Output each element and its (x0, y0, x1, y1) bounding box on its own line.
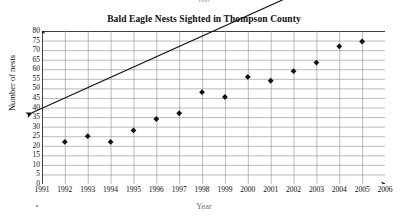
data-point-marker (359, 39, 365, 45)
x-axis-tick-label: 2002 (282, 186, 306, 194)
y-axis-tick-label: 50 (33, 84, 41, 92)
y-axis-tick-label: 40 (33, 104, 41, 112)
ghost-header-text: Year (0, 0, 408, 3)
chart-page: Year Bald Eagle Nests Sighted in Thompso… (0, 0, 408, 218)
y-axis-tick-label: 10 (33, 161, 41, 169)
data-point-marker (131, 128, 137, 134)
y-axis-tick-label: 60 (33, 65, 41, 73)
x-axis-tick-label: 1999 (213, 186, 237, 194)
data-point-markers (42, 31, 385, 184)
y-axis-tick-label: 25 (33, 132, 41, 140)
x-axis-tick-label: 1992 (53, 186, 77, 194)
x-axis-tick-label: 1993 (76, 186, 100, 194)
x-axis-tick-label: 2001 (259, 186, 283, 194)
y-axis-tick-label: 30 (33, 123, 41, 131)
data-point-marker (291, 68, 297, 74)
x-axis-tick-label: 2004 (327, 186, 351, 194)
x-axis-tick-label: 1997 (167, 186, 191, 194)
x-axis-tick-label: 2003 (304, 186, 328, 194)
y-axis-tick-label: 20 (33, 142, 41, 150)
data-point-marker (245, 74, 251, 80)
data-point-marker (62, 139, 68, 145)
chart-title: Bald Eagle Nests Sighted in Thompson Cou… (0, 14, 408, 24)
data-point-marker (222, 94, 228, 100)
data-point-marker (314, 60, 320, 66)
data-point-marker (336, 43, 342, 49)
y-axis-tick-label: 80 (33, 27, 41, 35)
y-axis-tick-label: 15 (33, 151, 41, 159)
x-axis-label: Year (0, 201, 408, 211)
y-axis-label: Number of nests (7, 43, 17, 123)
data-point-marker (268, 78, 274, 84)
x-axis-tick-label: 2000 (236, 186, 260, 194)
y-axis-tick-labels: 05101520253035404550556065707580 (0, 31, 40, 184)
x-axis-tick-label: 2006 (373, 186, 397, 194)
x-axis-tick-label: 1995 (121, 186, 145, 194)
x-axis-tick-label: 1991 (30, 186, 54, 194)
data-point-marker (153, 116, 159, 122)
data-point-marker (199, 89, 205, 95)
x-axis-tick-label: 1998 (190, 186, 214, 194)
y-axis-tick-label: 45 (33, 94, 41, 102)
x-axis-tick-label: 1996 (144, 186, 168, 194)
y-axis-tick-label: 65 (33, 56, 41, 64)
y-axis-tick-label: 70 (33, 46, 41, 54)
data-point-marker (85, 133, 91, 139)
x-axis-tick-labels: 1991199219931994199519961997199819992000… (0, 186, 408, 198)
y-axis-tick-label: 75 (33, 37, 41, 45)
data-point-marker (108, 139, 114, 145)
y-axis-tick-label: 55 (33, 75, 41, 83)
x-axis-tick-label: 2005 (350, 186, 374, 194)
y-axis-tick-label: 5 (36, 170, 40, 178)
y-axis-tick-label: 35 (33, 113, 41, 121)
plot-area (42, 31, 385, 184)
x-axis-tick-label: 1994 (99, 186, 123, 194)
page-corner-mark (36, 205, 38, 207)
data-point-marker (176, 110, 182, 116)
